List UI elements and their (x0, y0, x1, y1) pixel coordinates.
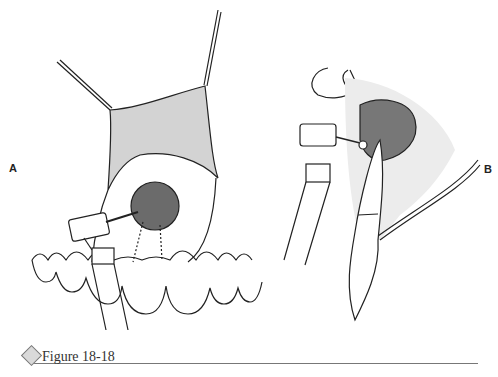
panel-b-drawing (284, 68, 480, 320)
panel-a-drawing (32, 10, 262, 330)
caption-text: Figure 18-18 (42, 349, 115, 365)
figure-caption: Figure 18-18 (22, 346, 478, 370)
panel-label-b: B (484, 163, 492, 175)
figure-illustration: A B (0, 0, 498, 340)
panel-label-a: A (9, 162, 17, 174)
dental-illustration (0, 0, 498, 340)
